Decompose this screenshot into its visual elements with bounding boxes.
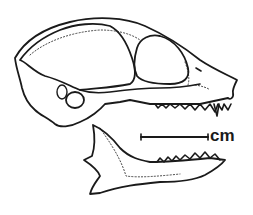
mandible-dotted [100, 128, 180, 177]
infraorbital-foramen [196, 68, 201, 71]
orbit-outline [134, 36, 188, 85]
mandible-outline [84, 125, 225, 194]
bulla-secondary [57, 85, 67, 99]
scale-bar-label: cm [210, 127, 235, 145]
temporal-fossa [20, 24, 135, 90]
suture-dotted-3 [195, 85, 210, 90]
suture-dotted [30, 30, 140, 55]
skull-illustration: cm [0, 0, 253, 215]
skull-drawing [0, 0, 253, 215]
auditory-bulla [66, 92, 84, 108]
